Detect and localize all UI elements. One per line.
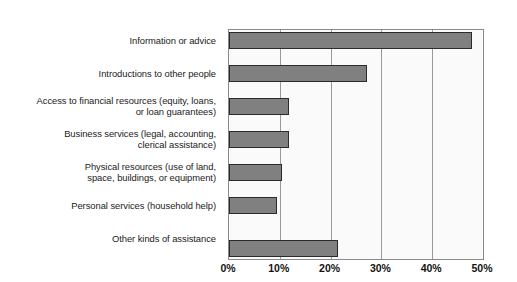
category-label: Other kinds of assistance [0,233,222,244]
bar-introductions-to-other-people [229,65,367,82]
plot-area [228,29,484,260]
horizontal-bar-chart: Information or advice Introductions to o… [0,0,517,282]
x-tick-50: 50% [452,262,512,275]
bar-other-kinds-of-assistance [229,240,338,257]
bar-personal-services [229,197,277,214]
bar-information-or-advice [229,32,472,49]
gridline-30 [381,30,382,259]
bar-business-services [229,131,289,148]
x-axis-tick-labels: 0% 10% 20% 30% 40% 50% [0,262,517,280]
gridline-40 [432,30,433,259]
category-label: Personal services (household help) [0,200,222,211]
category-label: Access to financial resources (equity, l… [0,95,222,118]
category-label: Introductions to other people [0,68,222,79]
category-label: Physical resources (use of land, space, … [0,161,222,184]
bar-physical-resources [229,164,282,181]
category-label: Information or advice [0,35,222,46]
category-axis-labels: Information or advice Introductions to o… [0,29,222,258]
bar-access-to-financial-resources [229,98,289,115]
category-label: Business services (legal, accounting, cl… [0,128,222,151]
